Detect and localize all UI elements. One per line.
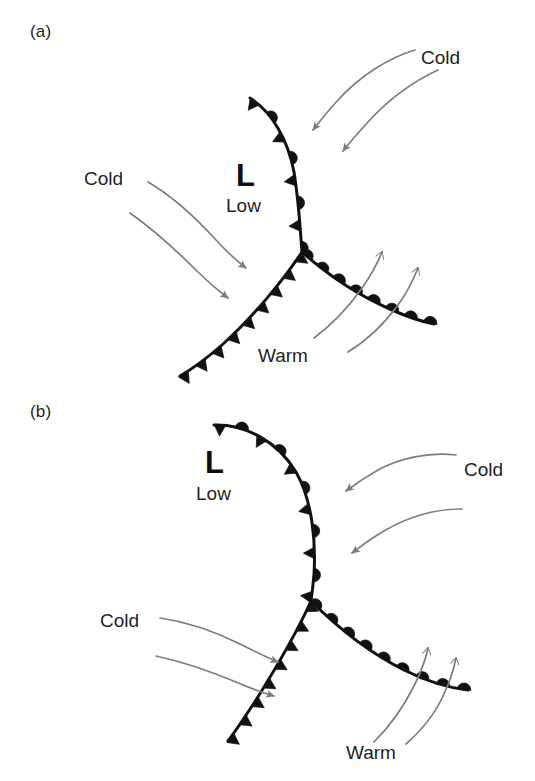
panel-a-label: (a) bbox=[30, 22, 51, 42]
panel-a-cold-label-left: Cold bbox=[84, 168, 123, 190]
panel-b-cold-label-left: Cold bbox=[100, 610, 139, 632]
panel-b-label: (b) bbox=[30, 402, 51, 422]
panel-a-warm-label-bottom: Warm bbox=[258, 345, 308, 367]
panel-a-cold-label-upper-right: Cold bbox=[421, 47, 460, 69]
panel-b-cold-label-right: Cold bbox=[464, 459, 503, 481]
panel-b-warm-label-bottom: Warm bbox=[346, 742, 396, 764]
panel-b-low-pressure-word: Low bbox=[196, 484, 231, 503]
weather-front-diagram bbox=[0, 0, 535, 781]
panel-a-low-pressure-symbol: L bbox=[236, 160, 255, 191]
panel-b-low-pressure-symbol: L bbox=[205, 447, 224, 478]
panel-a-low-pressure-word: Low bbox=[226, 196, 261, 215]
